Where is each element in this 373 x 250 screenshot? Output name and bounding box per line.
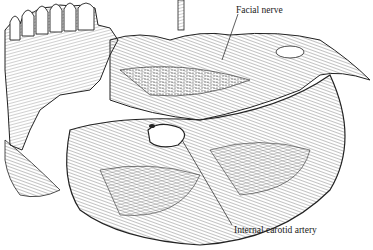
label-internal-carotid-artery: Internal carotid artery [234, 226, 317, 236]
anatomical-illustration [0, 0, 373, 250]
internal-carotid-artery-structure [148, 124, 185, 147]
retractor-instrument [178, 0, 184, 30]
label-facial-nerve: Facial nerve [236, 6, 283, 16]
